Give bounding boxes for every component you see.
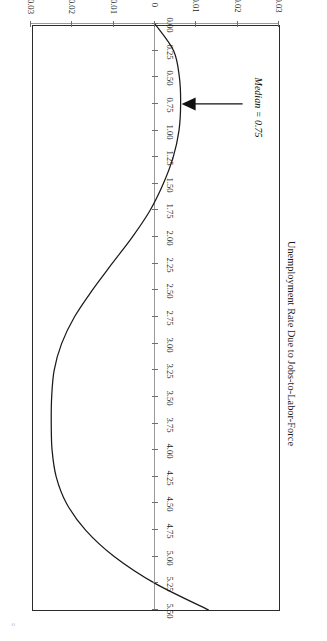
value-axis-tick-label: -0.03	[26, 0, 36, 17]
value-axis-tick	[237, 21, 238, 27]
value-axis-tick-label: -0.02	[67, 0, 77, 17]
x-axis-tick	[152, 76, 158, 77]
x-axis-tick-label: 0.50	[165, 65, 175, 91]
x-axis-tick-label: 4.25	[165, 465, 175, 491]
value-axis-tick-label: -0.01	[109, 0, 119, 17]
x-axis-tick-label: 5.50	[165, 598, 175, 624]
x-axis-tick-label: 0.00	[165, 12, 175, 38]
x-axis-tick	[152, 556, 158, 557]
x-axis-tick	[152, 156, 158, 157]
corner-artifact: o	[12, 621, 16, 629]
x-axis-tick	[152, 316, 158, 317]
x-axis-tick-label: 1.75	[165, 198, 175, 224]
x-axis-tick	[152, 476, 158, 477]
figure-rotator: Unemployment Rate Due to Jobs-to-Labor-F…	[0, 0, 327, 641]
x-axis-tick	[152, 130, 158, 131]
x-axis-tick	[152, 23, 158, 24]
value-axis-tick-label: 0.03	[274, 0, 284, 17]
x-axis-tick	[152, 50, 158, 51]
median-annotation-label: Median = 0.75	[252, 59, 263, 155]
value-axis-tick-label: 0.01	[191, 0, 201, 17]
value-axis-tick	[71, 21, 72, 27]
x-axis-tick	[152, 263, 158, 264]
value-axis-tick	[278, 21, 279, 27]
value-axis-tick-label: 0.02	[233, 0, 243, 17]
x-axis-tick-label: 3.00	[165, 332, 175, 358]
x-axis-tick	[152, 343, 158, 344]
value-axis-tick	[113, 21, 114, 27]
x-axis-tick-label: 2.25	[165, 252, 175, 278]
x-axis-tick	[152, 502, 158, 503]
value-axis-tick	[195, 21, 196, 27]
x-axis-tick-label: 4.75	[165, 518, 175, 544]
x-axis-tick-label: 0.25	[165, 39, 175, 65]
x-axis-tick	[152, 209, 158, 210]
x-axis-tick-label: 3.50	[165, 385, 175, 411]
x-axis-tick	[152, 423, 158, 424]
arrow-head	[182, 97, 196, 110]
x-axis-tick-label: 1.50	[165, 172, 175, 198]
x-axis-tick	[152, 236, 158, 237]
x-axis-tick	[152, 609, 158, 610]
value-axis-tick	[30, 21, 31, 27]
x-axis-tick	[152, 369, 158, 370]
x-axis-tick	[152, 396, 158, 397]
x-axis-tick-label: 3.75	[165, 412, 175, 438]
x-axis-tick-label: 2.75	[165, 305, 175, 331]
x-axis-tick-label: 2.00	[165, 225, 175, 251]
x-axis-tick-label: 4.00	[165, 438, 175, 464]
x-axis-tick-label: 1.00	[165, 119, 175, 145]
x-axis-tick-label: 5.25	[165, 571, 175, 597]
x-axis-tick-label: 3.25	[165, 358, 175, 384]
x-axis-tick	[152, 449, 158, 450]
chart-figure: Unemployment Rate Due to Jobs-to-Labor-F…	[0, 0, 327, 641]
x-axis-tick	[152, 183, 158, 184]
x-axis-tick-label: 2.50	[165, 278, 175, 304]
annotation-arrow	[31, 24, 279, 610]
plot-area: 0.030.020.010-0.01-0.02-0.030.000.250.50…	[32, 25, 280, 611]
x-axis-tick	[152, 529, 158, 530]
value-axis-tick-label: 0	[150, 0, 160, 17]
x-axis-tick	[152, 582, 158, 583]
x-axis-tick	[152, 289, 158, 290]
x-axis-tick-label: 1.25	[165, 145, 175, 171]
x-axis-tick-label: 4.50	[165, 491, 175, 517]
x-axis-tick-label: 5.00	[165, 545, 175, 571]
x-axis-tick-label: 0.75	[165, 92, 175, 118]
value-axis-tick	[154, 21, 155, 27]
x-axis-tick	[152, 103, 158, 104]
y-axis-title: Unemployment Rate Due to Jobs-to-Labor-F…	[286, 234, 297, 454]
